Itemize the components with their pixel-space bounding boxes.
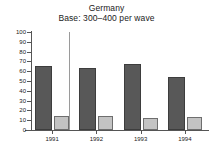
y-tick-label: 70 xyxy=(4,58,26,64)
chart-subtitle: Base: 300–400 per wave xyxy=(0,13,213,23)
y-tick-mark xyxy=(27,61,31,62)
y-tick-mark xyxy=(27,110,31,111)
x-tick-label: 1993 xyxy=(121,136,161,143)
x-tick-label: 1992 xyxy=(76,136,116,143)
bar-dark[interactable] xyxy=(35,66,52,130)
bar-light[interactable] xyxy=(187,117,202,130)
bar-group xyxy=(124,32,158,130)
bar-group xyxy=(35,32,69,130)
bar-light[interactable] xyxy=(143,118,158,130)
y-tick-label: 80 xyxy=(4,49,26,55)
y-tick-label: 90 xyxy=(4,39,26,45)
y-tick-mark xyxy=(27,71,31,72)
y-tick-label: 10 xyxy=(4,117,26,123)
x-tick-mark xyxy=(96,130,97,134)
y-tick-label: 30 xyxy=(4,98,26,104)
y-tick-mark xyxy=(27,101,31,102)
y-tick-mark xyxy=(27,130,31,131)
y-tick-mark xyxy=(27,81,31,82)
x-tick-mark xyxy=(52,130,53,134)
bar-dark[interactable] xyxy=(168,77,185,130)
y-tick-mark xyxy=(27,52,31,53)
x-tick-label: 1994 xyxy=(165,136,205,143)
y-tick-label: 0 xyxy=(4,127,26,133)
y-tick-label: 40 xyxy=(4,88,26,94)
bar-group xyxy=(168,32,202,130)
x-tick-mark xyxy=(185,130,186,134)
y-tick-mark xyxy=(27,91,31,92)
y-tick-mark xyxy=(27,32,31,33)
bar-group xyxy=(79,32,113,130)
bar-dark[interactable] xyxy=(79,68,96,130)
chart-title: Germany xyxy=(0,3,213,13)
y-tick-label: 50 xyxy=(4,78,26,84)
bar-light[interactable] xyxy=(54,116,69,130)
chart-title-block: Germany Base: 300–400 per wave xyxy=(0,3,213,23)
bar-light[interactable] xyxy=(98,116,113,130)
plot-area: 1009080706050403020100 xyxy=(31,32,208,130)
x-tick-mark xyxy=(141,130,142,134)
y-tick-mark xyxy=(27,120,31,121)
bar-chart: Germany Base: 300–400 per wave 100908070… xyxy=(0,0,213,151)
x-tick-label: 1991 xyxy=(32,136,72,143)
y-tick-label: 60 xyxy=(4,68,26,74)
bar-dark[interactable] xyxy=(124,64,141,130)
y-tick-label: 100 xyxy=(4,29,26,35)
y-tick-mark xyxy=(27,42,31,43)
y-tick-label: 20 xyxy=(4,107,26,113)
vertical-separator-line xyxy=(69,32,70,130)
